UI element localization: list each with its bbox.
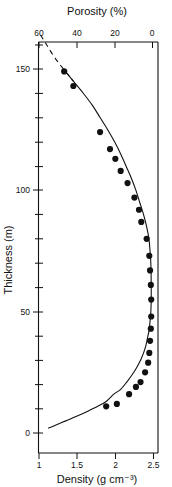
top-tick-label-40: 40	[72, 28, 82, 38]
data-point	[148, 282, 154, 288]
data-point	[146, 350, 152, 356]
bottom-tick-label-1-5: 1.5	[71, 460, 83, 470]
data-point	[124, 180, 130, 186]
left-axis-title: Thickness (m)	[2, 225, 14, 294]
data-point	[147, 267, 153, 273]
chart-canvas: Porosity (%) 60 40 20 0	[0, 0, 172, 487]
plot-frame	[39, 42, 159, 453]
left-tick-label-100: 100	[16, 185, 30, 195]
bottom-axis-ticks	[39, 453, 154, 459]
data-point	[70, 83, 76, 89]
top-tick-label-20: 20	[110, 28, 120, 38]
bottom-tick-label-2: 2	[113, 460, 118, 470]
bottom-tick-label-1: 1	[37, 460, 42, 470]
bottom-tick-label-2-5: 2.5	[148, 460, 160, 470]
bottom-axis-tick-labels: 1 1.5 2 2.5	[37, 460, 160, 470]
data-point	[147, 338, 153, 344]
data-point	[137, 379, 143, 385]
density-porosity-depth-profile-figure: Porosity (%) 60 40 20 0	[0, 0, 172, 487]
fitted-curve-solid-segment	[48, 69, 151, 428]
data-point	[148, 313, 154, 319]
data-point	[145, 360, 151, 366]
left-tick-label-0: 0	[25, 428, 30, 438]
data-point	[144, 236, 150, 242]
top-tick-label-0: 0	[150, 28, 155, 38]
data-point	[133, 384, 139, 390]
bottom-axis-title: Density (g cm⁻³)	[57, 473, 138, 485]
left-tick-label-50: 50	[21, 307, 31, 317]
data-point	[148, 326, 154, 332]
data-point	[146, 253, 152, 259]
data-point	[126, 391, 132, 397]
data-point	[114, 401, 120, 407]
top-tick-label-60: 60	[34, 28, 44, 38]
data-point	[103, 403, 109, 409]
data-point	[131, 195, 137, 201]
left-tick-label-150: 150	[16, 64, 30, 74]
top-axis-ticks	[39, 42, 153, 48]
data-point	[107, 146, 113, 152]
data-point	[97, 129, 103, 135]
data-point	[112, 156, 118, 162]
data-point	[118, 168, 124, 174]
measured-sample-points	[61, 68, 154, 409]
data-point	[148, 296, 154, 302]
data-point	[138, 219, 144, 225]
data-point	[142, 369, 148, 375]
top-axis-title: Porosity (%)	[67, 5, 127, 17]
data-point	[136, 207, 142, 213]
data-point	[61, 68, 67, 74]
left-axis-tick-labels: 150 100 50 0	[16, 64, 30, 438]
top-axis-tick-labels: 60 40 20 0	[34, 28, 154, 38]
